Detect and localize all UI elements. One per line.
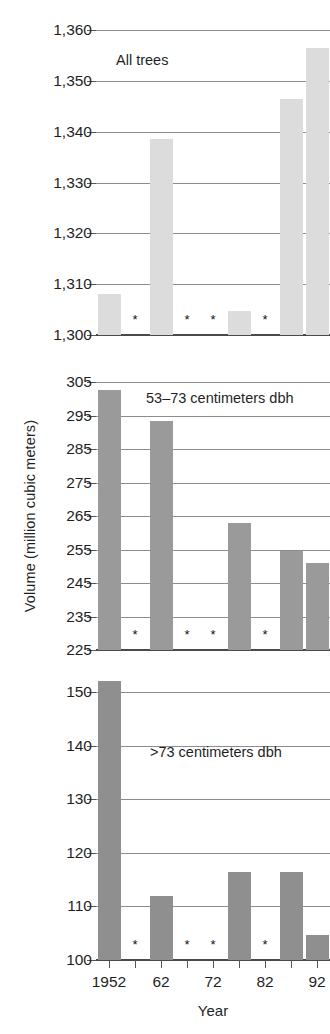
bar [306, 48, 329, 335]
y-tick-label: 255 [66, 542, 92, 557]
bar [150, 421, 173, 650]
y-tick-label: 1,320 [53, 225, 92, 240]
y-tick-label: 110 [67, 898, 92, 913]
x-tick-mark [317, 960, 318, 968]
gridline [96, 853, 330, 854]
bar [228, 311, 251, 335]
x-tick-mark [109, 960, 110, 968]
y-tick-label: 305 [66, 374, 92, 389]
gridline [96, 516, 330, 517]
panel-title: All trees [116, 52, 168, 68]
y-tick-label: 120 [66, 845, 92, 860]
bar [98, 681, 121, 960]
gridline [96, 81, 330, 82]
bar [228, 523, 251, 650]
figure-root: Volume (million cubic meters) 1,3001,310… [0, 0, 330, 1034]
y-tick-label: 1,330 [53, 175, 92, 190]
y-tick-label: 275 [66, 475, 92, 490]
y-tick-label: 265 [66, 508, 92, 523]
missing-data-star: * [205, 313, 221, 326]
missing-data-star: * [179, 938, 195, 951]
y-tick-label: 150 [66, 684, 92, 699]
x-tick-label: 92 [291, 973, 330, 991]
y-tick-label: 140 [66, 738, 92, 753]
missing-data-star: * [205, 938, 221, 951]
panel-gt-73-cm-dbh: 100110120130140150****>73 centimeters db… [0, 692, 330, 960]
panel-all-trees: 1,3001,3101,3201,3301,3401,3501,360****A… [0, 30, 330, 335]
plot-area: 1,3001,3101,3201,3301,3401,3501,360**** [96, 30, 330, 335]
x-tick-mark [135, 960, 136, 968]
y-tick-label: 1,350 [53, 73, 92, 88]
gridline [96, 382, 330, 383]
x-tick-mark [239, 960, 240, 968]
panel-title: >73 centimeters dbh [150, 744, 282, 760]
x-tick-label: 72 [187, 973, 239, 991]
bar [150, 139, 173, 335]
x-tick-label: 62 [135, 973, 187, 991]
x-axis-title: Year [96, 1002, 330, 1019]
gridline [96, 692, 330, 693]
x-tick-mark [265, 960, 266, 968]
gridline [96, 799, 330, 800]
x-tick-label: 1952 [83, 973, 135, 991]
plot-area: 225235245255265275285295305**** [96, 382, 330, 650]
x-tick-mark [187, 960, 188, 968]
y-tick-label: 225 [66, 642, 92, 657]
bar [280, 872, 303, 960]
x-tick-mark [291, 960, 292, 968]
bar [306, 563, 329, 650]
gridline [96, 483, 330, 484]
missing-data-star: * [127, 938, 143, 951]
missing-data-star: * [179, 628, 195, 641]
x-tick-mark [213, 960, 214, 968]
panel-53-73-cm-dbh: 225235245255265275285295305****53–73 cen… [0, 382, 330, 650]
x-tick-label: 82 [239, 973, 291, 991]
y-tick-label: 245 [66, 575, 92, 590]
bar [280, 551, 303, 650]
gridline [96, 30, 330, 31]
y-tick-label: 295 [66, 408, 92, 423]
gridline [96, 416, 330, 417]
bar [98, 390, 121, 650]
y-tick-label: 235 [66, 609, 92, 624]
missing-data-star: * [127, 628, 143, 641]
bar [228, 872, 251, 960]
y-tick-label: 1,300 [53, 327, 92, 342]
x-tick-mark [161, 960, 162, 968]
missing-data-star: * [127, 313, 143, 326]
y-tick-label: 1,340 [53, 124, 92, 139]
missing-data-star: * [257, 313, 273, 326]
missing-data-star: * [179, 313, 195, 326]
y-tick-label: 130 [66, 791, 92, 806]
y-tick-label: 1,310 [53, 276, 92, 291]
y-tick-label: 100 [66, 952, 92, 967]
bar [98, 294, 121, 335]
missing-data-star: * [205, 628, 221, 641]
y-tick-label: 285 [66, 441, 92, 456]
panel-title: 53–73 centimeters dbh [146, 390, 294, 406]
x-axis: Year 195262728292 [96, 960, 330, 1030]
bar [306, 935, 329, 960]
bar [150, 896, 173, 960]
y-tick-label: 1,360 [53, 22, 92, 37]
bar [280, 99, 303, 335]
plot-area: 100110120130140150**** [96, 692, 330, 960]
missing-data-star: * [257, 628, 273, 641]
gridline [96, 449, 330, 450]
missing-data-star: * [257, 938, 273, 951]
